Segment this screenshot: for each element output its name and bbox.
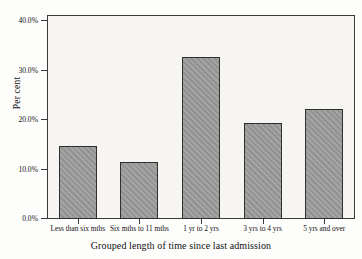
y-axis-tick-label-20: 20.0% bbox=[0, 115, 38, 124]
bar-1-yr-to-2-yrs[interactable] bbox=[182, 57, 220, 219]
bar-5-yrs-and-over[interactable] bbox=[305, 109, 343, 219]
x-axis-tick-label-4: 5 yrs and over bbox=[303, 224, 345, 233]
chart-figure: Per cent 40.0% 30.0% 20.0% 10.0% 0.0% Le… bbox=[0, 0, 362, 259]
y-axis-tick-label-40: 40.0% bbox=[0, 16, 38, 25]
x-axis-tick-label-0: Less than six mths bbox=[50, 224, 105, 233]
bar-3-yrs-to-4-yrs[interactable] bbox=[244, 123, 282, 219]
y-axis-tick-label-30: 30.0% bbox=[0, 66, 38, 75]
x-axis-tick-label-2: 1 yr to 2 yrs bbox=[183, 224, 219, 233]
bar-less-than-six-mths[interactable] bbox=[59, 146, 97, 219]
y-axis-tick-label-10: 10.0% bbox=[0, 165, 38, 174]
x-axis-tick-label-3: 3 yrs to 4 yrs bbox=[243, 224, 282, 233]
x-axis-title: Grouped length of time since last admiss… bbox=[0, 240, 362, 251]
bar-six-mths-to-11-mths[interactable] bbox=[120, 162, 158, 219]
y-axis-title: Per cent bbox=[10, 43, 24, 143]
x-axis-tick-label-1: Six mths to 11 mths bbox=[110, 224, 169, 233]
y-axis-tick-label-0: 0.0% bbox=[0, 214, 38, 223]
